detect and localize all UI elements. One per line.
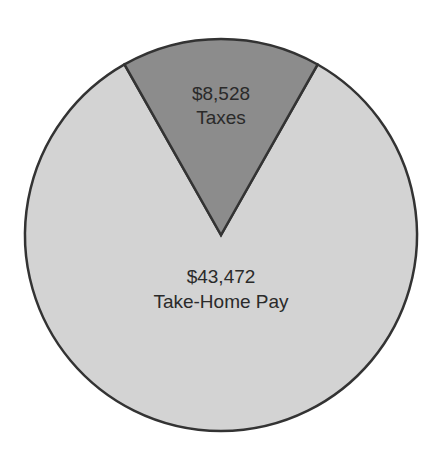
taxes-value-label: $8,528 [192,83,250,104]
taxes-name-label: Taxes [196,107,246,128]
take-home-value-label: $43,472 [187,266,256,287]
take-home-name-label: Take-Home Pay [153,291,289,312]
pie-chart: $8,528 Taxes $43,472 Take-Home Pay [0,0,443,467]
